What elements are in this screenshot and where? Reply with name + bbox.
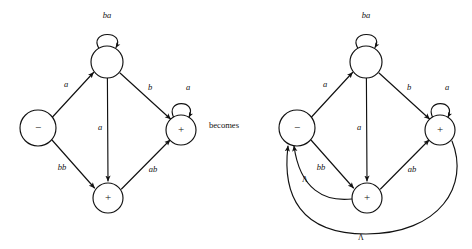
- left-edge-label-bottom-right: ab: [149, 164, 158, 174]
- right-node-top[interactable]: [350, 46, 382, 78]
- left-edge-label-start-top: a: [64, 79, 68, 89]
- left-edge-label-top-self: ba: [103, 10, 112, 20]
- left-edge-label-right-self: a: [186, 82, 190, 92]
- right-edge-label-bottom-right: ab: [408, 164, 417, 174]
- right-edge-label-right-start-lambda: Λ: [358, 233, 364, 242]
- right-edge-label-top-bottom: a: [357, 122, 361, 132]
- left-automaton: − + + ba a b a a bb ab: [20, 10, 196, 213]
- becomes-connector-text: becomes: [209, 120, 240, 130]
- right-node-right-label: +: [437, 123, 443, 135]
- left-edge-label-top-right: b: [148, 82, 152, 92]
- left-edge-top-to-bottom: [107, 78, 108, 181]
- right-edge-label-start-top: a: [323, 79, 327, 89]
- right-automaton: − + + ba a b a a bb ab Λ Λ: [279, 10, 457, 242]
- automaton-transformation-figure: − + + ba a b a a bb ab becomes: [0, 0, 472, 249]
- figure-root: − + + ba a b a a bb ab becomes: [0, 0, 472, 249]
- right-node-bottom-label: +: [364, 191, 370, 203]
- right-edge-start-to-top: [312, 73, 353, 118]
- right-edge-label-start-bottom: bb: [317, 162, 326, 172]
- left-edge-top-to-right: [120, 73, 171, 119]
- left-node-right-label: +: [178, 123, 184, 135]
- right-edge-top-to-bottom: [366, 78, 367, 181]
- right-edge-label-top-right: b: [407, 82, 411, 92]
- right-edge-bottom-to-right: [381, 140, 430, 189]
- right-node-start-label: −: [294, 121, 300, 133]
- left-edge-label-top-bottom: a: [98, 122, 102, 132]
- left-edge-start-to-top: [53, 73, 94, 118]
- right-edge-top-to-right: [379, 73, 430, 119]
- right-edge-label-bottom-start-lambda: Λ: [302, 175, 308, 184]
- right-edge-label-right-self: a: [445, 82, 449, 92]
- left-node-top[interactable]: [91, 46, 123, 78]
- right-edge-label-top-self: ba: [362, 10, 371, 20]
- left-node-start-label: −: [35, 121, 41, 133]
- left-edge-bottom-to-right: [122, 140, 171, 189]
- left-node-bottom-label: +: [105, 191, 111, 203]
- left-edge-label-start-bottom: bb: [58, 162, 67, 172]
